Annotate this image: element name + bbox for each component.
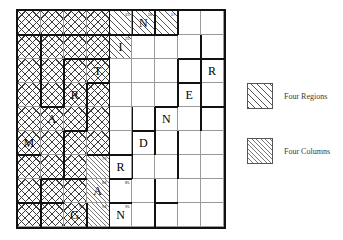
grid-cell[interactable] bbox=[178, 35, 201, 59]
grid-cell[interactable] bbox=[110, 59, 133, 83]
grid-cell[interactable] bbox=[132, 83, 155, 107]
grid-cell[interactable] bbox=[201, 131, 224, 155]
grid-cell[interactable]: E bbox=[178, 83, 201, 107]
grid-cell[interactable]: I25 bbox=[110, 35, 133, 59]
grid-cell[interactable] bbox=[41, 203, 64, 227]
grid-cell[interactable] bbox=[155, 59, 178, 83]
grid-cell[interactable] bbox=[64, 59, 87, 83]
grid-cell[interactable] bbox=[155, 131, 178, 155]
cell-index-superscript: 95 bbox=[125, 205, 129, 209]
grid-cell[interactable] bbox=[132, 179, 155, 203]
grid-cell[interactable] bbox=[178, 11, 201, 35]
legend-swatch-four-regions-icon bbox=[247, 83, 273, 109]
cell-index-superscript: 16 bbox=[148, 13, 152, 17]
grid-cell[interactable] bbox=[155, 203, 178, 227]
region-boundary-vertical bbox=[40, 35, 42, 107]
grid-cell[interactable] bbox=[155, 35, 178, 59]
region-boundary-vertical bbox=[86, 83, 88, 131]
grid-cell[interactable]: N95 bbox=[110, 203, 133, 227]
grid-cell[interactable] bbox=[178, 179, 201, 203]
region-boundary-vertical bbox=[132, 155, 134, 179]
grid-cell[interactable]: R bbox=[201, 59, 224, 83]
grid-cell[interactable] bbox=[110, 107, 133, 131]
grid-cell[interactable]: T bbox=[87, 59, 110, 83]
grid-cell[interactable] bbox=[87, 11, 110, 35]
grid-cell[interactable] bbox=[132, 155, 155, 179]
grid-cell[interactable] bbox=[87, 131, 110, 155]
cell-letter: R bbox=[208, 65, 216, 77]
grid-cell[interactable]: N16 bbox=[132, 11, 155, 35]
grid-cell[interactable] bbox=[201, 35, 224, 59]
grid-cell[interactable] bbox=[132, 107, 155, 131]
grid-cell[interactable]: A84 bbox=[87, 179, 110, 203]
grid-cell[interactable]: R bbox=[64, 83, 87, 107]
grid-cell[interactable] bbox=[64, 155, 87, 179]
cell-letter: A bbox=[93, 185, 102, 197]
grid-cell[interactable] bbox=[201, 203, 224, 227]
grid-cell[interactable] bbox=[155, 155, 178, 179]
region-boundary-vertical bbox=[132, 11, 134, 35]
grid-cell[interactable] bbox=[18, 59, 41, 83]
grid-cell[interactable]: 94 bbox=[87, 203, 110, 227]
grid-cell[interactable] bbox=[64, 179, 87, 203]
grid-cell[interactable]: D bbox=[132, 131, 155, 155]
grid-cell[interactable] bbox=[155, 83, 178, 107]
grid-cell[interactable] bbox=[41, 11, 64, 35]
grid-cell[interactable] bbox=[18, 179, 41, 203]
grid-cell[interactable] bbox=[41, 155, 64, 179]
grid-cell[interactable]: N bbox=[155, 107, 178, 131]
grid-cell[interactable] bbox=[201, 83, 224, 107]
grid-cell[interactable] bbox=[87, 107, 110, 131]
cell-index-superscript: 17 bbox=[171, 13, 175, 17]
grid-cell[interactable] bbox=[178, 155, 201, 179]
grid-cell[interactable] bbox=[201, 155, 224, 179]
grid-cell[interactable] bbox=[178, 59, 201, 83]
grid-cell[interactable] bbox=[64, 107, 87, 131]
grid-cell[interactable] bbox=[18, 83, 41, 107]
grid-cell[interactable]: G93 bbox=[64, 203, 87, 227]
grid-cell[interactable] bbox=[132, 203, 155, 227]
region-boundary-horizontal bbox=[132, 130, 155, 132]
region-boundary-horizontal bbox=[64, 130, 87, 132]
legend-label-four-columns: Four Columns bbox=[284, 147, 330, 156]
grid-cell[interactable] bbox=[87, 83, 110, 107]
grid-cell[interactable] bbox=[201, 179, 224, 203]
grid-cell[interactable] bbox=[41, 131, 64, 155]
grid-cell[interactable] bbox=[87, 35, 110, 59]
grid-cell[interactable]: 15 bbox=[110, 11, 133, 35]
grid-cell[interactable] bbox=[41, 179, 64, 203]
grid-cell[interactable] bbox=[18, 203, 41, 227]
grid-cell[interactable] bbox=[41, 35, 64, 59]
grid-cell[interactable] bbox=[201, 107, 224, 131]
grid-cell[interactable] bbox=[155, 179, 178, 203]
grid-cell[interactable]: A bbox=[41, 107, 64, 131]
grid-cell[interactable]: 17 bbox=[155, 11, 178, 35]
grid-cell[interactable] bbox=[110, 131, 133, 155]
grid-cell[interactable] bbox=[64, 35, 87, 59]
region-boundary-vertical bbox=[200, 35, 202, 83]
grid-cell[interactable] bbox=[41, 83, 64, 107]
grid-cell[interactable]: R bbox=[110, 155, 133, 179]
grid-cell[interactable]: 85 bbox=[110, 179, 133, 203]
region-boundary-vertical bbox=[109, 11, 111, 227]
grid-cell[interactable] bbox=[178, 131, 201, 155]
grid-cell[interactable] bbox=[201, 11, 224, 35]
grid-cell[interactable] bbox=[18, 11, 41, 35]
grid-cell[interactable] bbox=[132, 59, 155, 83]
grid-cell[interactable] bbox=[64, 131, 87, 155]
region-boundary-vertical bbox=[132, 107, 134, 155]
region-boundary-horizontal bbox=[110, 178, 133, 180]
grid-cell[interactable] bbox=[41, 59, 64, 83]
grid-cell[interactable]: M bbox=[18, 131, 41, 155]
grid-cell[interactable]: 73 bbox=[87, 155, 110, 179]
grid-cell[interactable] bbox=[110, 83, 133, 107]
grid-cell[interactable] bbox=[18, 107, 41, 131]
grid-cell[interactable] bbox=[132, 35, 155, 59]
region-boundary-horizontal bbox=[110, 202, 133, 204]
grid-cell[interactable] bbox=[64, 11, 87, 35]
grid-cell[interactable] bbox=[178, 203, 201, 227]
region-boundary-horizontal bbox=[110, 34, 179, 36]
grid-cell[interactable] bbox=[18, 155, 41, 179]
grid-cell[interactable] bbox=[178, 107, 201, 131]
grid-cell[interactable] bbox=[18, 35, 41, 59]
